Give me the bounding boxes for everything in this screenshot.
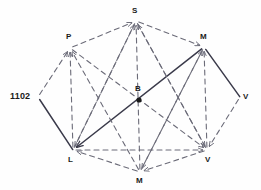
node-label-mbot: M (136, 177, 143, 185)
graph-svg (0, 0, 261, 190)
graph-edge (209, 100, 238, 147)
diagram-canvas: 1102PSMVVMLB (0, 0, 261, 190)
graph-edge (40, 52, 68, 95)
graph-edge (72, 52, 138, 169)
graph-edge (73, 23, 132, 47)
graph-edge (77, 151, 137, 171)
node-label-vright: V (243, 93, 249, 101)
node-label-p: P (66, 33, 72, 41)
graph-edge (206, 49, 240, 96)
node-label-b: B (135, 85, 141, 93)
node-label-1102: 1102 (10, 92, 30, 101)
node-label-s: S (132, 7, 138, 15)
node-label-l: L (68, 156, 73, 164)
graph-edge (137, 24, 204, 146)
graph-edge (40, 100, 73, 150)
node-label-mtop: M (200, 33, 207, 41)
node-layer (136, 97, 141, 102)
graph-node-dot[interactable] (136, 97, 141, 102)
node-label-vbot: V (205, 156, 211, 164)
graph-edge (144, 151, 204, 171)
edge-layer (40, 22, 240, 171)
graph-edge (70, 52, 73, 147)
graph-edge (204, 51, 207, 147)
